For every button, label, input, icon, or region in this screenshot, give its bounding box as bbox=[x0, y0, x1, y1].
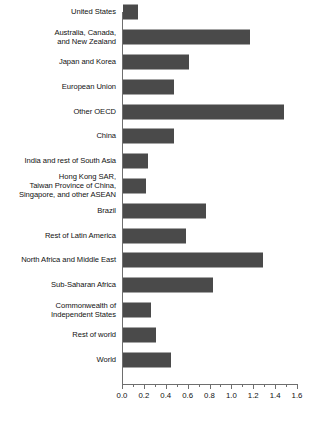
x-axis-tick-label: 0.6 bbox=[182, 391, 193, 400]
category-label: World bbox=[0, 355, 116, 364]
bar bbox=[123, 278, 213, 293]
bar bbox=[123, 79, 174, 94]
x-axis-minor-tick bbox=[286, 384, 287, 387]
bar bbox=[123, 104, 284, 119]
bar bbox=[123, 30, 250, 45]
x-axis-major-tick bbox=[231, 384, 232, 389]
x-axis-tick-label: 0.2 bbox=[138, 391, 149, 400]
bar-row: Japan and Korea bbox=[0, 50, 316, 75]
x-axis-major-tick bbox=[122, 384, 123, 389]
category-label: Japan and Korea bbox=[0, 57, 116, 66]
bar bbox=[123, 327, 156, 342]
x-axis-major-tick bbox=[166, 384, 167, 389]
bar bbox=[123, 253, 263, 268]
x-axis-tick-label: 1.4 bbox=[270, 391, 281, 400]
category-label: Hong Kong SAR, Taiwan Province of China,… bbox=[0, 172, 116, 199]
bar bbox=[123, 129, 174, 144]
bar bbox=[123, 203, 206, 218]
x-axis-minor-tick bbox=[177, 384, 178, 387]
x-axis-minor-tick bbox=[242, 384, 243, 387]
x-axis-tick-label: 0.8 bbox=[204, 391, 215, 400]
x-axis-major-tick bbox=[275, 384, 276, 389]
x-axis-major-tick bbox=[144, 384, 145, 389]
category-label: Sub-Saharan Africa bbox=[0, 281, 116, 290]
bar-row: North Africa and Middle East bbox=[0, 248, 316, 273]
category-label: Rest of Latin America bbox=[0, 231, 116, 240]
bar-row: European Union bbox=[0, 74, 316, 99]
x-axis-minor-tick bbox=[264, 384, 265, 387]
bar-row: Brazil bbox=[0, 198, 316, 223]
bar-row: Other OECD bbox=[0, 99, 316, 124]
category-label: European Union bbox=[0, 82, 116, 91]
bar-row: Rest of Latin America bbox=[0, 223, 316, 248]
x-axis-major-tick bbox=[188, 384, 189, 389]
bar-row: India and rest of South Asia bbox=[0, 149, 316, 174]
category-label: Commonwealth of Independent States bbox=[0, 301, 116, 319]
x-axis-tick-label: 1.6 bbox=[292, 391, 303, 400]
x-axis-tick-label: 0.4 bbox=[160, 391, 171, 400]
bar-row: Commonwealth of Independent States bbox=[0, 298, 316, 323]
bar-row: Sub-Saharan Africa bbox=[0, 273, 316, 298]
category-label: Brazil bbox=[0, 206, 116, 215]
bar-chart: United StatesAustralia, Canada, and New … bbox=[0, 0, 316, 425]
x-axis-minor-tick bbox=[220, 384, 221, 387]
x-axis-tick-label: 1.2 bbox=[248, 391, 259, 400]
bar-row: China bbox=[0, 124, 316, 149]
x-axis-major-tick bbox=[253, 384, 254, 389]
category-label: Australia, Canada, and New Zealand bbox=[0, 28, 116, 46]
category-label: North Africa and Middle East bbox=[0, 256, 116, 265]
bar-row: United States bbox=[0, 0, 316, 25]
bar-rows-container: United StatesAustralia, Canada, and New … bbox=[0, 0, 316, 372]
x-axis-major-tick bbox=[297, 384, 298, 389]
category-label: Other OECD bbox=[0, 107, 116, 116]
bar bbox=[123, 5, 138, 20]
bar bbox=[123, 352, 171, 367]
x-axis-tick-label: 1.0 bbox=[226, 391, 237, 400]
x-axis-major-tick bbox=[210, 384, 211, 389]
bar-row: Rest of world bbox=[0, 322, 316, 347]
bar bbox=[123, 178, 146, 193]
bar bbox=[123, 154, 148, 169]
x-axis-minor-tick bbox=[133, 384, 134, 387]
bar bbox=[123, 302, 151, 317]
bar-row: Australia, Canada, and New Zealand bbox=[0, 25, 316, 50]
category-label: United States bbox=[0, 8, 116, 17]
bar bbox=[123, 228, 186, 243]
x-axis-tick-label: 0.0 bbox=[117, 391, 128, 400]
category-label: China bbox=[0, 132, 116, 141]
category-label: Rest of world bbox=[0, 330, 116, 339]
bar bbox=[123, 54, 189, 69]
x-axis-minor-tick bbox=[199, 384, 200, 387]
category-label: India and rest of South Asia bbox=[0, 157, 116, 166]
bar-row: Hong Kong SAR, Taiwan Province of China,… bbox=[0, 174, 316, 199]
bar-row: World bbox=[0, 347, 316, 372]
x-axis-minor-tick bbox=[155, 384, 156, 387]
